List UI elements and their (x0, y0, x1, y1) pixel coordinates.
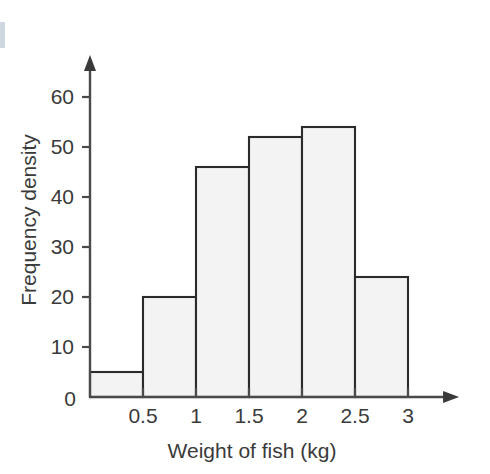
histogram-chart: 102030405060 0.511.522.53 0 Frequency de… (0, 0, 490, 474)
x-axis-arrow-icon (443, 391, 459, 403)
y-axis-tick-labels: 102030405060 (51, 85, 74, 358)
x-axis-tick-labels: 0.511.522.53 (128, 404, 413, 427)
histogram-bar-2 (196, 167, 249, 397)
histogram-bar-5 (355, 277, 408, 397)
y-tick-label-60: 60 (51, 85, 74, 108)
histogram-bar-3 (249, 137, 302, 397)
y-axis-title: Frequency density (17, 134, 40, 306)
histogram-bar-4 (302, 127, 355, 397)
x-tick-label-2.5: 2.5 (340, 404, 369, 427)
x-tick-label-1.5: 1.5 (234, 404, 263, 427)
page-edge-marker (0, 22, 5, 48)
y-axis-arrow-icon (84, 55, 96, 71)
bar-series (90, 127, 408, 397)
y-tick-label-40: 40 (51, 185, 74, 208)
y-tick-label-10: 10 (51, 335, 74, 358)
x-tick-label-1: 1 (190, 404, 202, 427)
x-tick-label-0.5: 0.5 (128, 404, 157, 427)
origin-label: 0 (64, 387, 76, 410)
x-tick-label-2: 2 (296, 404, 308, 427)
y-tick-label-50: 50 (51, 135, 74, 158)
y-tick-label-30: 30 (51, 235, 74, 258)
x-tick-label-3: 3 (402, 404, 414, 427)
histogram-bar-1 (143, 297, 196, 397)
histogram-bar-0 (90, 372, 143, 397)
histogram-figure: 102030405060 0.511.522.53 0 Frequency de… (0, 0, 490, 474)
x-axis-title: Weight of fish (kg) (168, 439, 337, 462)
y-tick-label-20: 20 (51, 285, 74, 308)
